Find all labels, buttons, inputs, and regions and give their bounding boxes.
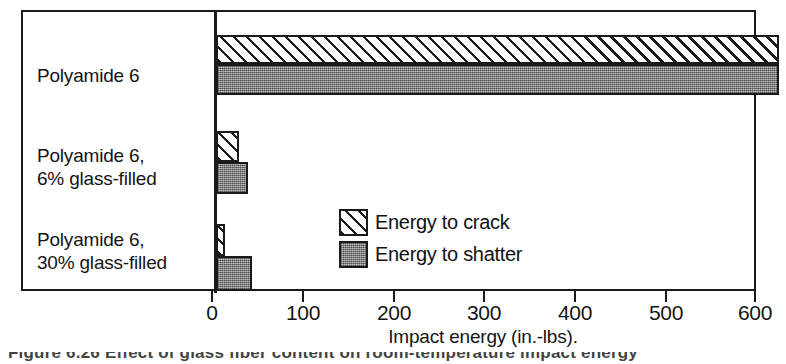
x-ticklabel-100: 100 (286, 301, 320, 325)
bar-shatter-polyamide-6-6pct (216, 162, 248, 194)
plot-frame: Polyamide 6 Polyamide 6, 6% glass-filled… (21, 10, 756, 291)
x-axis-title: Impact energy (in.-lbs). (0, 326, 786, 348)
bar-crack-polyamide-6 (216, 35, 779, 64)
bar-crack-polyamide-6-6pct (216, 131, 239, 162)
legend: Energy to crack Energy to shatter (339, 206, 589, 270)
legend-item-energy-to-crack: Energy to crack (339, 206, 589, 238)
x-ticklabel-300: 300 (467, 301, 501, 325)
legend-label-crack: Energy to crack (375, 211, 509, 233)
bar-crack-polyamide-6-30pct (216, 224, 225, 256)
x-axis-tick-labels: 0 100 200 300 400 500 600 (0, 301, 786, 327)
x-axis-title-text: Impact energy (in.-lbs). (388, 326, 578, 347)
x-ticklabel-500: 500 (649, 301, 683, 325)
x-ticklabel-0: 0 (206, 301, 217, 325)
bar-shatter-polyamide-6-30pct (216, 256, 252, 291)
legend-item-energy-to-shatter: Energy to shatter (339, 238, 589, 270)
x-ticklabel-400: 400 (558, 301, 592, 325)
x-ticklabel-200: 200 (377, 301, 411, 325)
category-label-polyamide-6: Polyamide 6 (37, 64, 213, 87)
category-label-polyamide-6-6pct: Polyamide 6, 6% glass-filled (37, 144, 213, 190)
figure-caption-cropped: Figure 6.26 Effect of glass fiber conten… (0, 352, 786, 364)
legend-swatch-crack-icon (339, 209, 368, 236)
category-label-polyamide-6-30pct: Polyamide 6, 30% glass-filled (37, 228, 213, 274)
legend-swatch-shatter-icon (339, 241, 368, 268)
x-ticklabel-600: 600 (738, 301, 772, 325)
bar-shatter-polyamide-6 (216, 64, 779, 95)
legend-label-shatter: Energy to shatter (375, 243, 522, 265)
figure-caption-text: Figure 6.26 Effect of glass fiber conten… (8, 352, 638, 363)
figure-root: Polyamide 6 Polyamide 6, 6% glass-filled… (0, 0, 786, 364)
category-axis-labels: Polyamide 6 Polyamide 6, 6% glass-filled… (23, 12, 214, 293)
